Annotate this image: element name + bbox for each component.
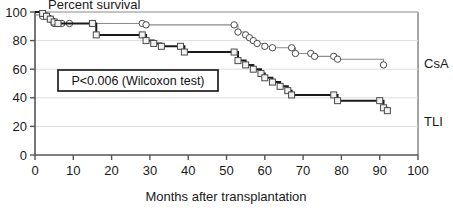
data-point-marker (380, 62, 386, 68)
data-point-marker (335, 98, 341, 104)
x-tick-label: 70 (296, 163, 310, 178)
data-point-marker (269, 79, 275, 85)
data-point-marker (311, 53, 317, 59)
data-point-marker (292, 50, 298, 56)
y-tick-label: 60 (13, 62, 27, 77)
pvalue-annotation-text: P<0.006 (Wilcoxon test) (71, 74, 204, 88)
data-point-marker (143, 22, 149, 28)
data-point-marker (331, 92, 337, 98)
gridlines (35, 12, 418, 126)
data-point-marker (262, 75, 268, 81)
data-point-marker (377, 98, 383, 104)
data-point-marker (288, 45, 294, 51)
data-point-marker (231, 49, 237, 55)
series-label-tli: TLI (424, 114, 443, 129)
data-point-marker (334, 56, 340, 62)
data-point-marker (139, 32, 145, 38)
survival-chart: 020406080100 0102030405060708090100 Perc… (0, 0, 453, 210)
data-point-marker (235, 29, 241, 35)
x-tick-label: 30 (143, 163, 157, 178)
data-point-marker (243, 62, 249, 68)
data-point-marker (89, 20, 95, 26)
data-point-marker (231, 22, 237, 28)
x-tick-label: 100 (407, 163, 429, 178)
y-tick-label: 20 (13, 119, 27, 134)
data-point-marker (151, 40, 157, 46)
data-point-marker (384, 108, 390, 114)
data-point-marker (250, 66, 256, 72)
y-tick-label: 80 (13, 33, 27, 48)
data-point-marker (158, 43, 164, 49)
x-tick-label: 80 (334, 163, 348, 178)
y-axis-ticks: 020406080100 (5, 5, 35, 163)
y-tick-label: 100 (5, 5, 27, 20)
data-point-marker (254, 40, 260, 46)
pvalue-annotation: P<0.006 (Wilcoxon test) (58, 70, 218, 91)
x-tick-label: 90 (372, 163, 386, 178)
y-tick-label: 40 (13, 90, 27, 105)
data-point-marker (262, 43, 268, 49)
x-axis-title: Months after transplantation (145, 189, 306, 204)
data-point-marker (269, 45, 275, 51)
x-tick-label: 50 (219, 163, 233, 178)
chart-title: Percent survival (48, 0, 141, 12)
data-point-marker (93, 32, 99, 38)
x-tick-label: 0 (31, 163, 38, 178)
series-label-csa: CsA (424, 56, 449, 71)
x-tick-label: 40 (181, 163, 195, 178)
data-point-marker (235, 58, 241, 64)
x-axis-ticks: 0102030405060708090100 (31, 155, 428, 178)
data-point-marker (277, 83, 283, 89)
x-tick-label: 10 (66, 163, 80, 178)
data-point-marker (143, 38, 149, 44)
chart-canvas: 020406080100 0102030405060708090100 Perc… (0, 0, 453, 210)
x-tick-label: 20 (104, 163, 118, 178)
data-point-marker (178, 43, 184, 49)
data-point-marker (289, 92, 295, 98)
x-tick-label: 60 (258, 163, 272, 178)
data-point-marker (55, 20, 61, 26)
y-tick-label: 0 (20, 148, 27, 163)
data-point-marker (181, 49, 187, 55)
